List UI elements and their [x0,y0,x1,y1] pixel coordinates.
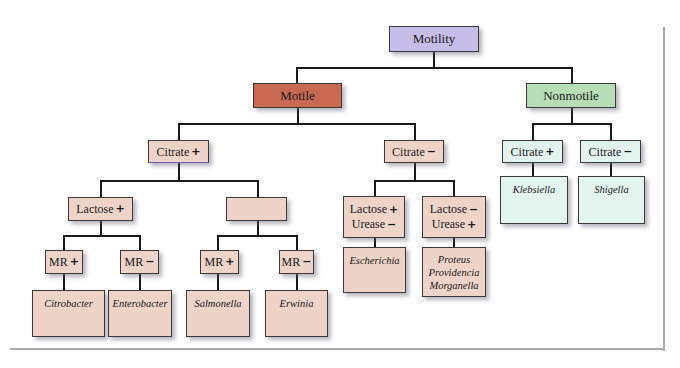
label: MR [205,255,224,269]
frame-border-right [663,27,665,351]
leaf-citrobacter: Citrobacter [32,290,105,337]
leaf-escherichia: Escherichia [343,247,406,293]
plus-sign: + [191,145,200,159]
node-mr-negative-2: MR− [279,250,314,274]
label: Lactose [350,202,387,216]
node-motile-citrate-negative: Citrate− [384,140,444,163]
organism-name: Citrobacter [44,297,93,310]
node-motile-label: Motile [280,89,315,103]
organism-name: Enterobacter [112,297,167,310]
minus-sign: − [469,203,478,216]
node-lactose-positive: Lactose+ [68,197,133,221]
node-lactose-positive-urease-negative: Lactose+ Urease− [343,196,405,238]
leaf-proteus-providencia-morganella: Proteus Providencia Morganella [422,247,486,297]
node-nonmotile-citrate-positive: Citrate+ [502,140,563,163]
organism-name: Shigella [594,183,628,196]
minus-sign: − [145,255,154,269]
organism-name: Proteus [438,253,470,266]
organism-name: Klebsiella [513,183,556,196]
plus-sign: + [545,145,554,159]
label: Citrate [589,145,622,159]
node-mr-positive-1: MR+ [45,250,83,274]
organism-name: Salmonella [194,297,241,310]
minus-sign: − [427,145,436,159]
node-motility: Motility [389,26,479,52]
frame-border-bottom [10,348,665,350]
node-nonmotile-label: Nonmotile [543,89,599,103]
label: Lactose [430,202,467,216]
plus-sign: + [389,203,398,216]
node-lactose-negative-urease-positive: Lactose− Urease+ [422,196,486,238]
node-mr-positive-2: MR+ [200,250,239,274]
minus-sign: − [623,145,632,159]
organism-name: Providencia [429,266,480,279]
node-motile-citrate-positive: Citrate+ [148,140,209,163]
organism-name: Escherichia [349,254,399,267]
plus-sign: + [116,202,125,216]
leaf-enterobacter: Enterobacter [108,290,172,337]
label: Urease [352,217,385,231]
label: Citrate [157,145,190,159]
leaf-klebsiella: Klebsiella [500,176,568,224]
label: MR [49,255,68,269]
label: MR [125,255,144,269]
minus-sign: − [302,255,311,269]
label: Citrate [511,145,544,159]
leaf-salmonella: Salmonella [186,290,250,337]
node-empty [226,197,287,221]
organism-name: Erwinia [280,297,314,310]
organism-name: Morganella [429,279,478,292]
leaf-erwinia: Erwinia [265,290,328,337]
node-nonmotile-citrate-negative: Citrate− [580,140,641,163]
plus-sign: + [225,255,234,269]
minus-sign: − [387,218,396,231]
node-mr-negative-1: MR− [120,250,159,274]
plus-sign: + [70,255,79,269]
label: Urease [432,217,465,231]
label: Citrate [392,145,425,159]
label: Lactose [76,202,113,216]
node-motility-label: Motility [413,32,456,46]
plus-sign: + [467,218,476,231]
leaf-shigella: Shigella [578,176,645,224]
node-nonmotile: Nonmotile [526,83,616,108]
node-motile: Motile [253,83,342,108]
label: MR [282,255,301,269]
